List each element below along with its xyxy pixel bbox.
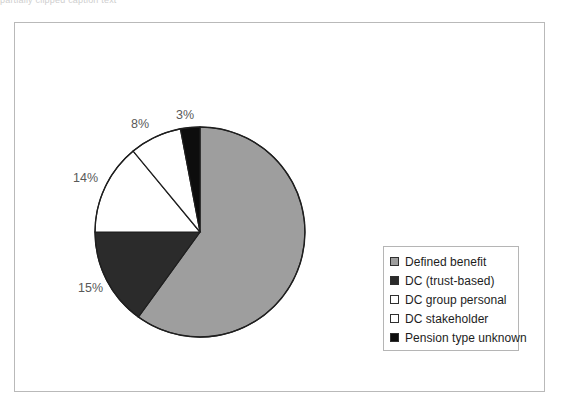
legend-item-pension-type-unknown[interactable]: Pension type unknown xyxy=(390,328,518,347)
legend-item-dc-stakeholder[interactable]: DC stakeholder xyxy=(390,309,518,328)
pie-label-pension-type-unknown: 3% xyxy=(176,108,194,122)
legend-swatch-dc-trust-based xyxy=(390,276,399,285)
pie-chart-svg xyxy=(80,115,320,355)
legend-item-dc-trust-based[interactable]: DC (trust-based) xyxy=(390,271,518,290)
pie-label-dc-group-personal: 14% xyxy=(73,171,98,185)
legend-label-dc-trust-based: DC (trust-based) xyxy=(405,274,495,288)
pie-chart-plot-area: 60% 15% 14% 8% 3% Defined benefit DC (tr… xyxy=(0,0,563,410)
legend-label-dc-group-personal: DC group personal xyxy=(405,293,507,307)
legend-label-defined-benefit: Defined benefit xyxy=(405,255,486,269)
legend-swatch-defined-benefit xyxy=(390,257,399,266)
legend-item-defined-benefit[interactable]: Defined benefit xyxy=(390,252,518,271)
pie-label-dc-trust-based: 15% xyxy=(78,281,103,295)
legend-item-dc-group-personal[interactable]: DC group personal xyxy=(390,290,518,309)
legend-label-dc-stakeholder: DC stakeholder xyxy=(405,312,488,326)
pie-label-dc-stakeholder: 8% xyxy=(131,117,149,131)
chart-legend: Defined benefit DC (trust-based) DC grou… xyxy=(383,246,519,351)
legend-swatch-pension-type-unknown xyxy=(390,333,399,342)
legend-swatch-dc-stakeholder xyxy=(390,314,399,323)
legend-label-pension-type-unknown: Pension type unknown xyxy=(405,331,527,345)
legend-swatch-dc-group-personal xyxy=(390,295,399,304)
